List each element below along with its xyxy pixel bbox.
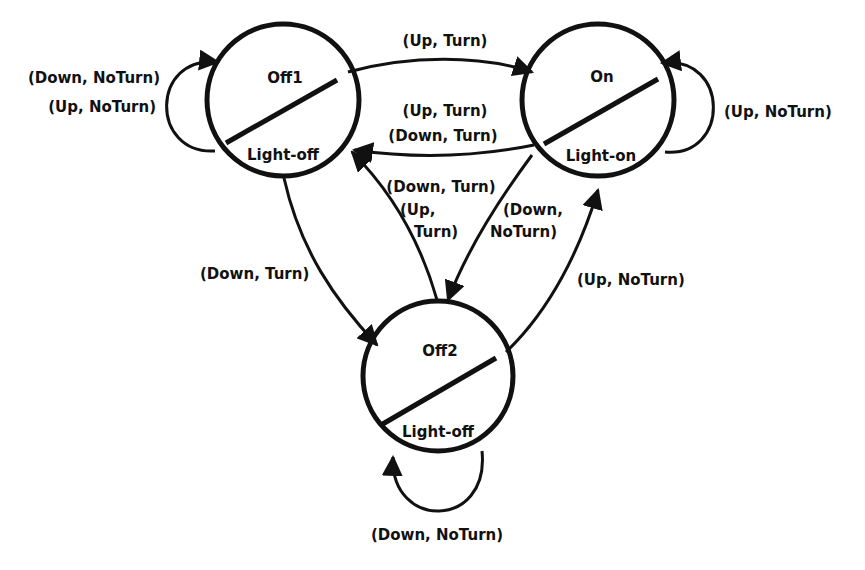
svg-text:(Up, NoTurn): (Up, NoTurn) xyxy=(724,103,832,121)
state-name: On xyxy=(590,68,613,86)
svg-text:(Up, Turn): (Up, Turn) xyxy=(403,32,488,50)
svg-text:(Down, Turn): (Down, Turn) xyxy=(200,265,309,283)
svg-text:NoTurn): NoTurn) xyxy=(490,223,557,241)
transition-off1-self: (Down, NoTurn) (Up, NoTurn) xyxy=(28,62,218,151)
svg-text:Turn): Turn) xyxy=(414,223,458,241)
state-off1: Off1 Light-off xyxy=(207,24,359,176)
transition-on-off1: (Up, Turn) (Down, Turn) xyxy=(354,102,534,155)
transition-on-self: (Up, NoTurn) xyxy=(662,63,832,153)
state-name: Off1 xyxy=(267,69,302,87)
svg-text:(Down, Turn): (Down, Turn) xyxy=(388,127,497,145)
svg-text:(Down,: (Down, xyxy=(503,201,563,219)
state-diagram: Off1 Light-off On Light-on Off2 Light-of… xyxy=(0,0,865,570)
transition-off1-off2: (Down, Turn) xyxy=(200,178,377,345)
transition-off2-off1: (Down, Turn) (Up, Turn) xyxy=(352,152,496,300)
state-output: Light-on xyxy=(566,147,637,165)
transition-off2-self: (Down, NoTurn) xyxy=(371,451,503,544)
svg-text:(Up, Turn): (Up, Turn) xyxy=(403,102,488,120)
state-name: Off2 xyxy=(422,342,457,360)
state-output: Light-off xyxy=(402,423,475,441)
transition-on-off2: (Down, NoTurn) xyxy=(448,155,563,300)
svg-text:(Up,: (Up, xyxy=(400,201,435,219)
state-off2: Off2 Light-off xyxy=(363,301,513,451)
state-output: Light-off xyxy=(247,146,320,164)
state-on: On Light-on xyxy=(522,24,674,176)
svg-text:(Down, Turn): (Down, Turn) xyxy=(386,178,495,196)
transition-off1-on: (Up, Turn) xyxy=(348,32,532,72)
svg-text:(Up, NoTurn): (Up, NoTurn) xyxy=(577,271,685,289)
svg-text:(Down, NoTurn): (Down, NoTurn) xyxy=(371,526,503,544)
svg-text:(Down, NoTurn): (Down, NoTurn) xyxy=(28,69,160,87)
svg-text:(Up, NoTurn): (Up, NoTurn) xyxy=(48,98,156,116)
